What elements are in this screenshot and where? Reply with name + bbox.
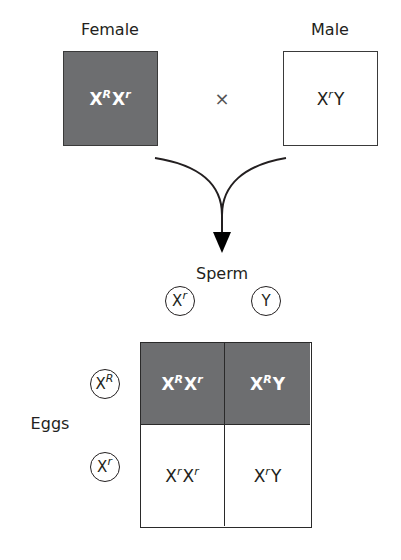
sperm-gamete-y: Y xyxy=(251,286,281,316)
female-genotype-box: XRXr xyxy=(63,51,158,146)
punnett-cell-xrxr: XrXr xyxy=(141,425,225,526)
allele: XrY xyxy=(317,89,345,109)
punnett-square: XRXr XRY XrXr XrY xyxy=(140,342,312,528)
cross-symbol: × xyxy=(212,88,232,109)
punnett-cell-xRy: XRY xyxy=(225,343,310,425)
sperm-gamete-xr: Xr xyxy=(165,286,195,316)
male-genotype-box: XrY xyxy=(283,51,378,146)
male-label: Male xyxy=(280,20,380,39)
punnett-cell-xRxr: XRXr xyxy=(141,343,225,425)
female-label: Female xyxy=(60,20,160,39)
punnett-cell-xry: XrY xyxy=(225,425,310,526)
eggs-label: Eggs xyxy=(20,414,80,433)
sperm-label: Sperm xyxy=(180,264,264,283)
egg-gamete-xR: XR xyxy=(90,369,120,399)
egg-gamete-xr: Xr xyxy=(90,452,120,482)
allele: XRXr xyxy=(89,89,131,109)
